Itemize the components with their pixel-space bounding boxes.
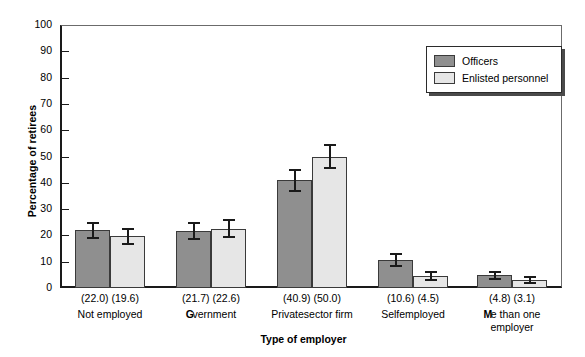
x-category-label: Me than oneemployer: [452, 308, 572, 334]
error-bar-stem: [294, 169, 296, 193]
error-bar-cap-top: [324, 144, 336, 146]
error-bar-cap-bottom: [390, 265, 402, 267]
y-tick-label: 20: [8, 229, 52, 239]
y-tick-label: 30: [8, 203, 52, 213]
error-bar: [425, 271, 437, 281]
error-bar-cap-top: [87, 222, 99, 224]
legend-label-officers: Officers: [462, 55, 498, 67]
error-bar-cap-top: [188, 222, 200, 224]
error-bar-cap-top: [289, 169, 301, 171]
error-bar: [188, 222, 200, 239]
bar-enlisted: [312, 157, 347, 289]
legend-item-enlisted: Enlisted personnel: [434, 69, 554, 86]
error-bar: [289, 169, 301, 193]
error-bar-cap-top: [122, 228, 134, 230]
error-bar-cap-top: [223, 219, 235, 221]
y-tick-mark: [60, 157, 69, 158]
error-bar-cap-bottom: [122, 243, 134, 245]
error-bar-cap-top: [489, 271, 501, 273]
error-bar-cap-bottom: [87, 237, 99, 239]
x-axis-title: Type of employer: [0, 333, 585, 345]
y-tick-label: 40: [8, 177, 52, 187]
error-bar-cap-bottom: [223, 236, 235, 238]
error-bar: [324, 144, 336, 168]
y-tick-label: 10: [8, 256, 52, 266]
legend-label-enlisted: Enlisted personnel: [462, 72, 548, 84]
error-bar: [524, 276, 536, 284]
error-bar: [223, 219, 235, 238]
y-tick-label: 50: [8, 151, 52, 161]
legend-item-officers: Officers: [434, 52, 554, 69]
y-tick-mark: [60, 262, 69, 263]
y-tick-mark: [60, 209, 69, 210]
y-tick-mark: [60, 78, 69, 79]
x-value-labels: (4.8) (3.1): [452, 292, 572, 304]
y-tick-label: 90: [8, 45, 52, 55]
y-tick-label: 0: [8, 282, 52, 292]
y-tick-label: 70: [8, 98, 52, 108]
error-bar-cap-bottom: [324, 167, 336, 169]
error-bar-cap-bottom: [289, 190, 301, 192]
error-bar-cap-top: [390, 253, 402, 255]
y-tick-label: 80: [8, 72, 52, 82]
error-bar: [489, 271, 501, 280]
error-bar-cap-bottom: [425, 279, 437, 281]
y-tick-label: 60: [8, 124, 52, 134]
error-bar-cap-bottom: [524, 282, 536, 284]
error-bar-cap-top: [425, 271, 437, 273]
bar-officers: [277, 180, 312, 288]
y-tick-mark: [60, 235, 69, 236]
x-axis-title-text: Type of employer: [260, 333, 346, 345]
error-bar: [122, 228, 134, 246]
error-bar-cap-top: [524, 276, 536, 278]
y-tick-mark: [60, 51, 69, 52]
bar-officers: [75, 230, 110, 288]
legend-swatch-enlisted: [434, 72, 455, 84]
legend-swatch-officers: [434, 55, 455, 67]
y-tick-mark: [60, 130, 69, 131]
y-tick-mark: [60, 183, 69, 184]
y-tick-mark: [60, 104, 69, 105]
error-bar-cap-bottom: [489, 278, 501, 280]
y-tick-label: 100: [8, 19, 52, 29]
error-bar-stem: [329, 144, 331, 168]
error-bar-cap-bottom: [188, 238, 200, 240]
chart-legend: Officers Enlisted personnel: [426, 46, 562, 93]
error-bar: [87, 222, 99, 239]
error-bar: [390, 253, 402, 267]
bar-chart-figure: Percentage of retirees 10090807060504030…: [0, 0, 585, 357]
